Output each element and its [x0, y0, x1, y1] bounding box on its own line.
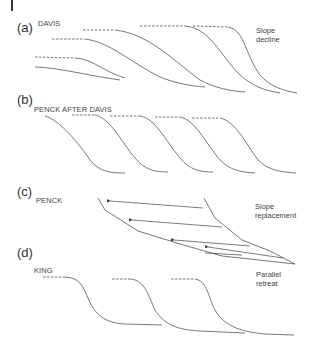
penck-profiles: [98, 198, 295, 264]
king-profiles: [43, 277, 294, 335]
davis-profiles: [35, 26, 297, 93]
penck-after-davis-profiles: [45, 115, 296, 173]
landform-diagram: [0, 0, 309, 349]
